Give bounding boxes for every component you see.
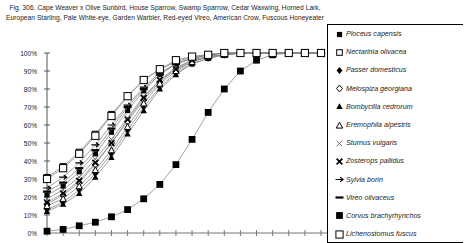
- chart-series: [44, 50, 324, 213]
- data-point-marker: [173, 161, 180, 168]
- legend-item[interactable]: Melospiza georgiana: [328, 80, 463, 98]
- legend-marker-icon: [333, 100, 346, 113]
- data-point-marker: [317, 49, 324, 56]
- legend-item-label: Passer domesticus: [346, 66, 406, 74]
- data-point-marker: [337, 49, 343, 55]
- series-line: [47, 53, 321, 195]
- legend-marker-icon: [333, 82, 346, 95]
- legend-item-label: Zosterops pallidus: [346, 157, 404, 165]
- legend-item[interactable]: Corvus brachyrhynchos: [328, 207, 463, 225]
- figure-panel: Fig. 306. Cape Weaver x Olive Sunbird, H…: [0, 0, 464, 243]
- data-point-marker: [253, 57, 260, 64]
- legend-item[interactable]: Sturnus vulgaris: [328, 134, 463, 152]
- data-point-marker: [188, 53, 195, 60]
- legend-item[interactable]: Ploceus capensis: [328, 25, 463, 43]
- series-line: [47, 53, 321, 211]
- chart-series: [44, 50, 325, 235]
- series-line: [47, 53, 321, 210]
- data-point-marker: [337, 159, 343, 165]
- data-point-marker: [336, 213, 343, 220]
- data-point-marker: [237, 68, 244, 75]
- data-point-marker: [140, 195, 147, 202]
- data-point-marker: [75, 167, 83, 169]
- data-point-marker: [253, 49, 260, 56]
- legend-item-label: Bombycilla cedrorum: [346, 103, 413, 111]
- data-point-marker: [221, 86, 228, 93]
- data-point-marker: [237, 49, 244, 56]
- legend-item-label: Sylvia borin: [346, 176, 383, 184]
- data-point-marker: [301, 49, 308, 56]
- data-point-marker: [205, 109, 212, 116]
- data-point-marker: [59, 182, 67, 184]
- data-point-marker: [336, 177, 344, 181]
- legend-item-label: Vireo olivaceus: [346, 194, 394, 202]
- series-line: [47, 53, 321, 204]
- legend-item-label: Sturnus vulgaris: [346, 139, 397, 147]
- chart-legend: Ploceus capensisNectarinia olivaceaPasse…: [327, 24, 463, 243]
- data-point-marker: [156, 66, 163, 73]
- data-point-marker: [43, 175, 50, 182]
- legend-marker-icon: [333, 137, 346, 150]
- data-point-marker: [285, 49, 292, 56]
- data-point-marker: [336, 122, 342, 128]
- data-point-marker: [60, 226, 67, 233]
- legend-marker-icon: [333, 191, 346, 204]
- legend-item-label: Eremophila alpestris: [346, 121, 411, 129]
- data-point-marker: [108, 213, 115, 220]
- legend-item[interactable]: Eremophila alpestris: [328, 116, 463, 134]
- data-point-marker: [156, 74, 164, 76]
- legend-item-label: Corvus brachyrhynchos: [346, 212, 421, 220]
- data-point-marker: [172, 57, 179, 64]
- data-point-marker: [336, 104, 342, 110]
- data-point-marker: [76, 222, 83, 229]
- chart-series: [44, 50, 323, 197]
- legend-item-label: Lichenostomus fuscus: [346, 230, 417, 238]
- legend-item-label: Nectarinia olivacea: [346, 48, 406, 56]
- data-point-marker: [269, 49, 276, 56]
- legend-marker-icon: [333, 228, 346, 241]
- chart-series: [44, 50, 324, 214]
- data-point-marker: [156, 181, 163, 188]
- series-line: [47, 53, 321, 179]
- legend-item[interactable]: Sylvia borin: [328, 171, 463, 189]
- legend-marker-icon: [333, 155, 346, 168]
- data-point-marker: [337, 31, 342, 36]
- chart-series: [44, 50, 324, 208]
- data-point-marker: [336, 197, 344, 199]
- data-point-marker: [189, 136, 196, 143]
- legend-marker-icon: [333, 119, 346, 132]
- legend-item[interactable]: Zosterops pallidus: [328, 152, 463, 170]
- data-point-marker: [91, 149, 99, 151]
- data-point-marker: [205, 51, 212, 58]
- chart-series: [44, 50, 324, 205]
- data-point-marker: [76, 150, 83, 157]
- data-point-marker: [337, 67, 343, 74]
- series-line: [47, 53, 321, 206]
- data-point-marker: [92, 219, 99, 226]
- data-point-marker: [140, 76, 147, 83]
- legend-item[interactable]: Nectarinia olivacea: [328, 43, 463, 61]
- legend-marker-icon: [333, 173, 346, 186]
- data-point-marker: [221, 49, 228, 56]
- chart-series: [43, 52, 325, 193]
- data-point-marker: [60, 165, 67, 172]
- legend-marker-icon: [333, 64, 346, 77]
- legend-item[interactable]: Lichenostomus fuscus: [328, 225, 463, 243]
- chart-series: [44, 50, 324, 209]
- legend-item-label: Ploceus capensis: [346, 30, 402, 38]
- data-point-marker: [337, 140, 343, 146]
- data-point-marker: [44, 228, 51, 235]
- data-point-marker: [92, 132, 99, 139]
- legend-marker-icon: [333, 209, 346, 222]
- legend-item-label: Melospiza georgiana: [346, 85, 412, 93]
- legend-item[interactable]: Bombycilla cedrorum: [328, 98, 463, 116]
- legend-item[interactable]: Vireo olivaceus: [328, 189, 463, 207]
- data-point-marker: [124, 106, 132, 108]
- legend-item[interactable]: Passer domesticus: [328, 61, 463, 79]
- chart-series: [43, 51, 325, 190]
- data-point-marker: [108, 112, 115, 119]
- data-point-marker: [336, 231, 343, 238]
- data-point-marker: [337, 85, 343, 92]
- legend-marker-icon: [333, 28, 346, 41]
- data-point-marker: [124, 93, 131, 100]
